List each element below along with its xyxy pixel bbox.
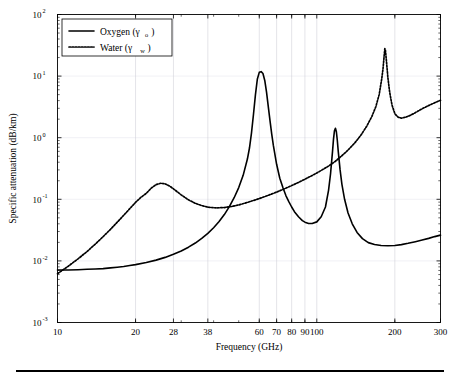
- y-tick-exponent: 0: [43, 131, 46, 138]
- y-tick-exponent: -3: [43, 315, 48, 322]
- x-tick-label: 20: [131, 327, 141, 337]
- y-tick-label: 10: [33, 195, 43, 205]
- legend-label-water: Water (γ: [100, 43, 132, 54]
- x-tick-label: 10: [53, 327, 63, 337]
- y-tick-label: 10: [33, 256, 43, 266]
- legend-subscript-oxygen: o: [145, 31, 148, 38]
- x-tick-label: 80: [287, 327, 297, 337]
- atmospheric-attenuation-chart: 102028386070809010020030010-310-210-1100…: [0, 0, 460, 383]
- x-tick-label: 100: [310, 327, 324, 337]
- x-tick-label: 28: [169, 327, 179, 337]
- x-tick-label: 70: [272, 327, 282, 337]
- series-curve-oxygen: [58, 72, 441, 270]
- x-axis-title: Frequency (GHz): [216, 342, 283, 353]
- x-tick-label: 60: [255, 327, 265, 337]
- y-tick-exponent: -2: [43, 254, 48, 261]
- legend-label-oxygen: Oxygen (γ: [100, 27, 140, 38]
- attenuation-figure: 102028386070809010020030010-310-210-1100…: [0, 0, 460, 383]
- y-tick-exponent: 2: [43, 7, 46, 14]
- legend-paren-close: ): [148, 43, 151, 54]
- y-tick-label: 10: [33, 133, 43, 143]
- series-curve-water: [58, 49, 441, 274]
- x-tick-label: 300: [434, 327, 448, 337]
- y-tick-label: 10: [33, 71, 43, 81]
- y-tick-exponent: -1: [43, 192, 48, 199]
- x-tick-label: 38: [203, 327, 213, 337]
- y-axis-title: Specific attenuation (dB/km): [8, 113, 19, 223]
- x-tick-label: 200: [388, 327, 402, 337]
- legend-subscript-water: w: [140, 47, 145, 54]
- y-tick-exponent: 1: [43, 69, 46, 76]
- x-tick-label: 90: [300, 327, 310, 337]
- legend-paren-close: ): [151, 27, 154, 38]
- y-tick-label: 10: [33, 318, 43, 328]
- y-tick-label: 10: [33, 10, 43, 20]
